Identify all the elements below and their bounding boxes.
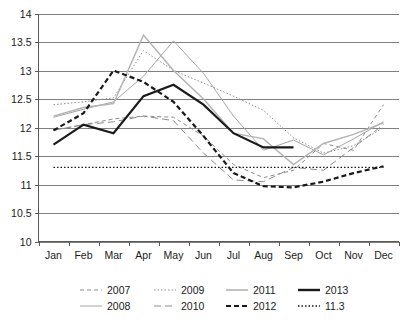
legend-label-2011: 2011 (253, 284, 276, 296)
x-axis-tick-label: Nov (344, 249, 363, 261)
series-line-2009 (54, 51, 384, 154)
legend-label-2007: 2007 (107, 284, 131, 296)
x-axis-tick-label: Oct (315, 249, 331, 261)
x-axis-tick-label: Jan (45, 249, 62, 261)
x-axis-tick-label: Apr (135, 249, 152, 261)
series-lines (54, 35, 384, 187)
y-axis-tick-label: 13 (20, 65, 32, 77)
chart-canvas: 1010.51111.51212.51313.514 JanFebMarAprM… (0, 0, 408, 326)
legend-label-2008: 2008 (107, 300, 131, 312)
y-axis-tick-label: 10 (20, 236, 32, 248)
y-axis-labels: 1010.51111.51212.51313.514 (11, 8, 32, 248)
y-axis-tick-label: 11.5 (12, 150, 32, 162)
y-axis-tick-label: 12.5 (11, 93, 32, 105)
x-axis-tick-label: Jul (227, 249, 240, 261)
x-axis-tick-label: May (164, 249, 185, 261)
chart-legend: 200720092011201320082010201211.3 (80, 284, 349, 312)
x-axis-tick-label: Aug (254, 249, 273, 261)
gridlines (35, 15, 399, 243)
x-axis-tick-label: Jun (195, 249, 212, 261)
y-axis-tick-label: 14 (20, 8, 32, 20)
legend-label-2012: 2012 (253, 300, 277, 312)
legend-label-11.3: 11.3 (325, 300, 345, 312)
legend-label-2010: 2010 (181, 300, 205, 312)
x-axis-tick-label: Feb (74, 249, 92, 261)
y-axis-tick-label: 10.5 (11, 207, 32, 219)
legend-label-2009: 2009 (181, 284, 205, 296)
y-axis-tick-label: 12 (20, 122, 32, 134)
y-axis-tick-label: 11 (21, 179, 32, 191)
x-axis-labels: JanFebMarAprMayJunJulAugSepOctNovDec (45, 249, 393, 261)
series-line-2008 (54, 41, 384, 155)
x-axis-tick-label: Sep (284, 249, 303, 261)
y-axis-tick-label: 13.5 (11, 36, 32, 48)
legend-label-2013: 2013 (325, 284, 349, 296)
x-axis-tick-label: Mar (104, 249, 123, 261)
line-chart: 1010.51111.51212.51313.514 JanFebMarAprM… (0, 0, 408, 326)
x-axis-tick-label: Dec (374, 249, 393, 261)
